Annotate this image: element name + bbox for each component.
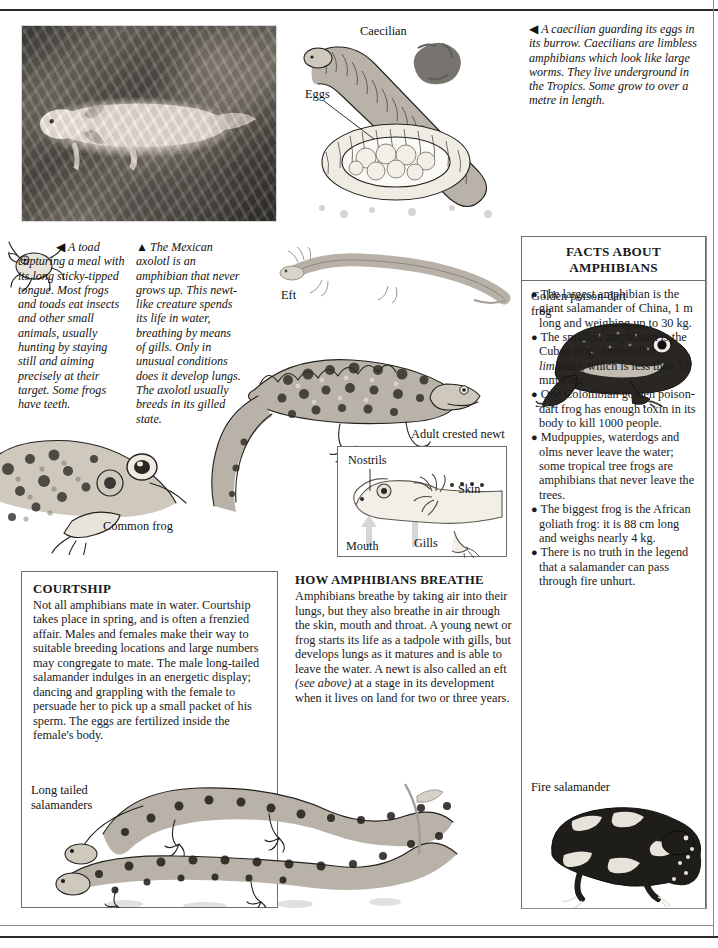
fire-salamander-drawing (528, 797, 704, 909)
breathe-text-part1: Amphibians breathe by taking air into th… (295, 589, 512, 676)
fact-item: ● Mudpuppies, waterdogs and olms never l… (531, 430, 697, 502)
long-tailed-salamanders-illustration (55, 778, 475, 908)
bullet-icon: ● (531, 288, 538, 300)
eft-illustration (278, 242, 513, 312)
facts-title-box: FACTS ABOUT AMPHIBIANS (522, 237, 705, 281)
label-long-tailed-salamanders: Long tailed salamanders (31, 783, 92, 813)
label-common-frog: Common frog (103, 519, 173, 533)
eggs-leader-line (320, 95, 380, 143)
frame-line-outer-bottom (0, 925, 714, 926)
fact-item: ● One Colombian golden poison-dart frog … (531, 387, 697, 430)
frame-line-inner-right (706, 236, 707, 909)
fact-item: ● There is no truth in the legend that a… (531, 545, 697, 588)
fact-text: There is no truth in the legend that a s… (539, 545, 688, 588)
facts-title: FACTS ABOUT AMPHIBIANS (522, 244, 705, 275)
fact-item: ● The smallest amphibian is the Cuban fr… (531, 330, 697, 387)
fact-text: One Colombian golden poison-dart frog ha… (539, 387, 696, 430)
label-caecilian: Caecilian (360, 24, 407, 38)
fact-text-smallest: The smallest amphibian is the Cuban frog… (539, 330, 690, 387)
long-tailed-salamanders-drawing (55, 778, 475, 908)
top-rule (0, 9, 718, 11)
breathe-title: HOW AMPHIBIANS BREATHE (295, 573, 517, 588)
common-frog-illustration (0, 425, 190, 555)
facts-list: ● The largest amphibian is the giant sal… (531, 287, 697, 588)
breathe-section: HOW AMPHIBIANS BREATHE Amphibians breath… (295, 573, 517, 705)
bullet-icon: ● (531, 503, 538, 515)
axolotl-photograph (21, 25, 277, 222)
bullet-icon: ● (531, 388, 538, 400)
caption-arrow-left-icon: ◀ (529, 22, 538, 36)
eft-drawing (278, 242, 513, 312)
bullet-icon: ● (531, 431, 538, 443)
fact-item: ● The biggest frog is the African goliat… (531, 502, 697, 545)
fire-salamander-illustration (528, 797, 704, 909)
fact-italic-species: Sminthillus limbatus (539, 344, 656, 372)
facts-panel: FACTS ABOUT AMPHIBIANS Golden poison-dar… (521, 236, 706, 909)
common-frog-drawing (0, 425, 190, 555)
caption-caecilian: ◀ A caecilian guarding its eggs in its b… (529, 22, 705, 108)
label-eggs: Eggs (305, 87, 330, 101)
frame-line-outer-right (713, 0, 714, 936)
fact-text: The largest amphibian is the giant salam… (539, 287, 693, 330)
frame-line-inner-bottom (522, 908, 706, 909)
breathe-text: Amphibians breathe by taking air into th… (295, 589, 517, 705)
label-adult-crested-newt: Adult crested newt (411, 427, 505, 441)
encyclopedia-page: Caecilian Eggs ◀ A caecilian guarding it… (0, 0, 718, 948)
fact-text: Mudpuppies, waterdogs and olms never lea… (539, 430, 694, 501)
label-gills: Gills (414, 536, 438, 550)
label-fire-salamander: Fire salamander (531, 780, 610, 794)
label-mouth: Mouth (346, 539, 379, 553)
bullet-icon: ● (531, 546, 538, 558)
courtship-title: COURTSHIP (33, 582, 269, 597)
bottom-rule (0, 936, 718, 938)
courtship-text: Not all amphibians mate in water. Courts… (33, 598, 269, 743)
bullet-icon: ● (531, 331, 538, 343)
caption-toad: A toad capturing a meal with its long st… (18, 240, 128, 412)
label-eft: Eft (281, 288, 296, 302)
photo-foliage-texture (22, 26, 276, 221)
fact-item: ● The largest amphibian is the giant sal… (531, 287, 697, 330)
fact-text: The biggest frog is the African goliath … (539, 502, 691, 545)
breathe-italic-aside: (see above) (295, 676, 351, 690)
label-skin: Skin (458, 482, 480, 496)
caption-caecilian-text: A caecilian guarding its eggs in its bur… (529, 22, 697, 107)
label-nostrils: Nostrils (348, 453, 387, 467)
breathing-anatomy-box: Nostrils Skin Gills Mouth (337, 446, 507, 557)
